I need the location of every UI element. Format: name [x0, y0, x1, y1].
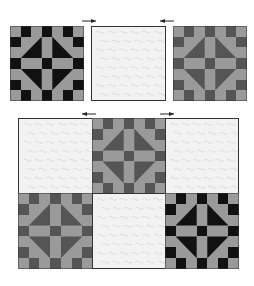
- border-dark-square: [42, 90, 53, 101]
- fabric-texture-mark: [154, 49, 162, 51]
- fabric-texture-mark: [219, 186, 227, 188]
- grid-r1-c3-plain: [165, 118, 239, 194]
- grid-r1-c2-pieced-grey: [92, 118, 166, 194]
- cross-bar-bottom: [42, 69, 53, 90]
- arrow-head: [91, 19, 96, 23]
- fabric-texture-mark: [146, 261, 154, 263]
- fabric-texture-mark: [96, 49, 104, 51]
- cross-bar-bottom: [124, 161, 135, 183]
- fabric-texture-mark: [123, 93, 131, 95]
- border-dark-square: [228, 247, 239, 258]
- fabric-texture-mark: [108, 84, 116, 86]
- border-dark-square: [42, 26, 53, 37]
- fabric-texture-mark: [96, 31, 104, 33]
- fabric-texture-mark: [50, 186, 58, 188]
- fabric-texture-mark: [231, 150, 238, 152]
- border-dark-square: [50, 258, 61, 269]
- border-dark-square: [72, 258, 83, 269]
- cross-bar-right: [207, 226, 228, 237]
- fabric-texture-mark: [100, 58, 108, 60]
- fabric-texture-mark: [81, 159, 89, 161]
- border-dark-square: [226, 90, 237, 101]
- arrow-head: [82, 112, 87, 116]
- fabric-texture-mark: [35, 123, 43, 125]
- fabric-texture-mark: [154, 31, 162, 33]
- fabric-texture-mark: [27, 168, 35, 170]
- fabric-texture-mark: [135, 261, 143, 263]
- fabric-texture-mark: [69, 159, 77, 161]
- fabric-texture-mark: [193, 159, 201, 161]
- border-dark-square: [173, 37, 184, 48]
- fabric-texture-mark: [131, 216, 139, 218]
- fabric-texture-mark: [146, 75, 154, 77]
- border-dark-square: [73, 80, 84, 91]
- fabric-texture-mark: [219, 150, 227, 152]
- border-dark-square: [218, 193, 229, 204]
- fabric-texture-mark: [146, 207, 154, 209]
- fabric-texture-mark: [23, 141, 31, 143]
- fabric-texture-mark: [39, 132, 47, 134]
- fabric-texture-mark: [227, 123, 235, 125]
- fabric-texture-mark: [85, 168, 92, 170]
- arrow-left-icon: [81, 111, 97, 117]
- top-block-1-pieced-black: [10, 26, 84, 101]
- border-dark-square: [21, 90, 32, 101]
- fabric-texture-mark: [142, 84, 150, 86]
- fabric-texture-mark: [135, 243, 143, 245]
- fabric-texture-mark: [81, 141, 89, 143]
- fabric-texture-mark: [58, 177, 66, 179]
- fabric-texture-mark: [142, 31, 150, 33]
- fabric-texture-mark: [119, 84, 127, 86]
- cross-bar-left: [184, 58, 205, 69]
- fabric-texture-mark: [35, 141, 43, 143]
- fabric-texture-mark: [186, 132, 194, 134]
- fabric-texture-mark: [215, 123, 223, 125]
- border-dark-square: [173, 58, 184, 69]
- fabric-texture-mark: [181, 141, 189, 143]
- border-dark-square: [205, 90, 216, 101]
- fabric-texture-mark: [119, 67, 127, 69]
- fabric-texture-mark: [186, 168, 194, 170]
- fabric-texture-mark: [142, 67, 150, 69]
- fabric-texture-mark: [154, 84, 162, 86]
- arrow-head: [160, 19, 165, 23]
- border-dark-square: [165, 226, 176, 237]
- center-square: [205, 58, 216, 69]
- fabric-texture-mark: [123, 40, 131, 42]
- fabric-texture-mark: [27, 186, 35, 188]
- cross-bar-left: [103, 151, 124, 162]
- center-square: [124, 151, 135, 162]
- border-dark-square: [236, 37, 247, 48]
- fabric-texture-mark: [146, 243, 154, 245]
- border-dark-square: [205, 26, 216, 37]
- fabric-texture-mark: [39, 186, 47, 188]
- fabric-texture-mark: [231, 186, 238, 188]
- border-dark-square: [228, 226, 239, 237]
- fabric-texture-mark: [62, 186, 70, 188]
- fabric-texture-mark: [85, 132, 92, 134]
- fabric-texture-mark: [73, 168, 81, 170]
- fabric-texture-mark: [146, 93, 154, 95]
- fabric-texture-mark: [158, 93, 165, 95]
- border-dark-square: [18, 247, 29, 258]
- fabric-texture-mark: [112, 58, 120, 60]
- fabric-texture-mark: [193, 141, 201, 143]
- center-square: [42, 58, 53, 69]
- fabric-texture-mark: [81, 177, 89, 179]
- grid-r2-c1-pieced-grey: [18, 193, 93, 269]
- border-dark-square: [124, 118, 135, 129]
- fabric-texture-mark: [219, 168, 227, 170]
- fabric-texture-mark: [62, 168, 70, 170]
- border-dark-square: [73, 58, 84, 69]
- cross-bar-top: [42, 37, 53, 58]
- fabric-texture-mark: [120, 252, 128, 254]
- fabric-texture-mark: [120, 198, 128, 200]
- border-dark-square: [197, 193, 208, 204]
- fabric-texture-mark: [50, 132, 58, 134]
- border-dark-square: [176, 193, 187, 204]
- fabric-texture-mark: [197, 150, 205, 152]
- fabric-texture-mark: [27, 132, 35, 134]
- border-dark-square: [29, 258, 40, 269]
- fabric-texture-mark: [50, 168, 58, 170]
- fabric-texture-mark: [39, 150, 47, 152]
